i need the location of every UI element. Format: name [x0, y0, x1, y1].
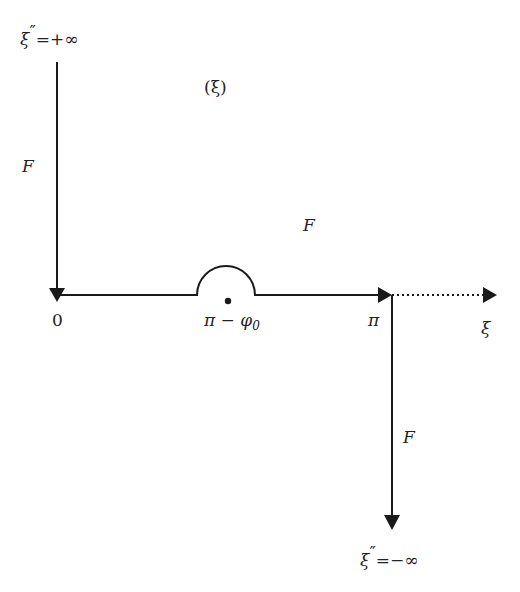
- indent-point-label: π − φ0: [203, 310, 260, 333]
- arrow-right-axis-icon: [483, 287, 497, 303]
- pole-point: [225, 298, 231, 304]
- region-label-right: F: [402, 427, 416, 447]
- bottom-infinity-label: ξ″=−∞: [360, 542, 418, 570]
- real-axis-contour: [57, 266, 380, 295]
- top-infinity-label: ξ″=+∞: [20, 21, 78, 49]
- arrow-right-pi-icon: [378, 287, 392, 303]
- arrow-down-bottom-icon: [384, 515, 400, 530]
- axis-label: ξ: [481, 318, 492, 338]
- plane-label: (ξ): [204, 77, 227, 97]
- contour-diagram: ξ″=+∞ (ξ) F F F 0 π − φ0 π ξ ξ″=−∞: [0, 0, 520, 592]
- region-label-center: F: [302, 215, 316, 235]
- origin-label: 0: [52, 310, 63, 330]
- region-label-left: F: [21, 156, 35, 176]
- pi-label: π: [367, 310, 380, 330]
